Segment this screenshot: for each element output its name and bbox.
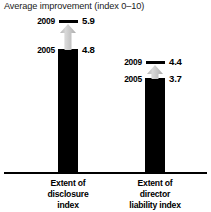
bar-disclosure-index (58, 49, 78, 173)
value-label-2009-director-liability-index: 4.4 (169, 56, 182, 67)
year-label-2005-director-liability-index: 2005 (105, 74, 142, 84)
category-label-director-liability-index: Extent of director liability index (103, 178, 207, 212)
category-label-line: Extent of (103, 178, 207, 189)
category-label-line: director (103, 189, 207, 200)
value-label-2009-disclosure-index: 5.9 (82, 15, 95, 26)
growth-arrow-director-liability-index (147, 65, 163, 79)
chart-figure: Average improvement (index 0–10) 2009 5.… (0, 0, 211, 212)
value-label-2005-director-liability-index: 3.7 (169, 73, 182, 84)
marker-2009-director-liability-index (146, 61, 165, 64)
year-label-2009-director-liability-index: 2009 (105, 57, 142, 67)
category-label-line: liability index (103, 200, 207, 211)
growth-arrow-disclosure-index (60, 24, 76, 50)
year-label-2009-disclosure-index: 2009 (18, 16, 55, 26)
year-label-2005-disclosure-index: 2005 (18, 45, 55, 55)
chart-title: Average improvement (index 0–10) (4, 1, 144, 11)
axis-baseline (4, 172, 207, 174)
marker-2009-disclosure-index (59, 20, 78, 23)
bar-director-liability-index (145, 78, 165, 173)
value-label-2005-disclosure-index: 4.8 (82, 44, 95, 55)
